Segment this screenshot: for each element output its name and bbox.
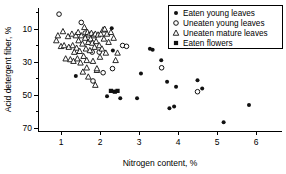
y-tick-label: 10 [23,24,33,34]
data-point [81,53,87,58]
data-point [93,38,99,43]
data-point [247,103,251,107]
x-tick-label: 4 [176,137,181,147]
x-tick-label: 2 [98,137,103,147]
series-eaten-flowers [109,89,120,94]
data-point [82,24,88,29]
data-point [151,48,155,52]
legend-entry[interactable]: Uneaten mature leaves [173,29,267,38]
plot-canvas: 70503010123456 Eaten young leavesUneaten… [0,0,286,174]
legend-marker-filled-circle [174,11,178,15]
y-axis-title: Acid detergent fiber, % [3,26,13,112]
legend-entry[interactable]: Eaten young leaves [174,9,255,18]
chart-legend: Eaten young leavesUneaten young leavesUn… [168,5,282,48]
data-point [165,80,169,84]
data-point [86,74,92,79]
data-point [200,86,204,90]
data-point [105,94,109,98]
data-point [75,56,81,61]
data-point [159,58,163,62]
data-point [84,65,90,70]
data-point [174,85,178,89]
data-point [111,48,115,52]
data-point [54,38,60,43]
data-point [79,20,84,25]
data-point [110,66,115,71]
data-point [70,43,76,48]
data-point [108,29,114,34]
x-tick-label: 3 [137,137,142,147]
legend-label: Uneaten young leaves [183,19,264,28]
data-point [195,89,200,94]
data-point [172,105,176,109]
x-tick-label: 1 [59,137,64,147]
legend-marker-open-circle [174,21,179,26]
legend-entry[interactable]: Uneaten young leaves [174,19,265,28]
data-point [159,65,164,70]
data-point [55,33,61,38]
data-point [111,35,117,40]
data-point [124,44,129,49]
data-point [167,106,171,110]
data-point [222,120,226,124]
data-point [97,54,103,59]
x-axis-title: Nitrogen content, % [123,158,198,168]
legend-label: Eaten young leaves [183,9,255,18]
data-point [63,56,69,61]
legend-label: Uneaten mature leaves [183,29,268,38]
data-point [74,74,78,78]
data-point [115,89,119,93]
legend-entry[interactable]: Eaten flowers [174,39,233,48]
data-point [101,36,107,41]
data-point [196,78,200,82]
data-point [90,58,96,63]
data-point [75,29,81,34]
data-point [115,50,121,55]
x-tick-label: 5 [215,137,220,147]
legend-marker-filled-square [174,41,178,45]
data-point [118,96,122,100]
legend-label: Eaten flowers [183,39,233,48]
data-point [106,39,112,44]
scatter-plot-figure: 70503010123456 Eaten young leavesUneaten… [0,0,286,174]
data-point [113,57,119,62]
data-point [135,96,139,100]
y-tick-label: 70 [23,123,33,133]
y-tick-label: 30 [23,57,33,67]
data-point [139,72,143,76]
x-tick-label: 6 [254,137,259,147]
series-uneaten-mature-leaves [54,24,121,87]
y-tick-label: 50 [23,90,33,100]
data-point [101,70,106,75]
data-point [57,12,62,17]
data-point [76,38,82,43]
data-point [60,28,66,33]
data-point [94,66,100,71]
data-point [109,89,113,93]
